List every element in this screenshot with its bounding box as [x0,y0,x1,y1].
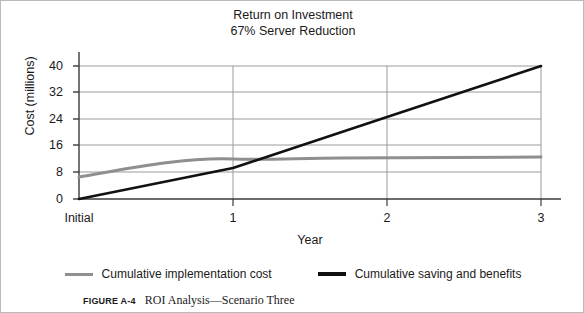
x-tick-label-1: 1 [230,211,237,225]
legend-swatch-icon-implementation-cost [65,273,93,276]
y-axis-label: Cost (millions) [23,26,37,166]
x-tick-label-initial: Initial [64,211,93,225]
figure-container: Return on Investment 67% Server Reductio… [0,0,584,313]
x-tick-marks [233,199,541,206]
y-tick-marks [73,66,79,199]
legend-label-implementation-cost: Cumulative implementation cost [102,267,272,281]
x-axis-label: Year [79,233,541,247]
vertical-gridlines [233,66,541,199]
figure-caption: FIGURE A-4 ROI Analysis—Scenario Three [83,293,294,308]
figure-caption-label: FIGURE A-4 [83,296,136,306]
legend-item-implementation-cost: Cumulative implementation cost [65,267,272,281]
x-tick-label-2: 2 [384,211,391,225]
legend-swatch-icon-saving-benefits [318,272,346,276]
series-line-implementation-cost [79,157,541,177]
y-tick-label-0: 0 [29,192,63,206]
series-line-saving-benefits [79,66,541,199]
chart-legend: Cumulative implementation cost Cumulativ… [1,267,584,281]
legend-label-saving-benefits: Cumulative saving and benefits [355,267,522,281]
y-tick-label-8: 8 [29,165,63,179]
legend-item-saving-benefits: Cumulative saving and benefits [318,267,522,281]
figure-caption-text: ROI Analysis—Scenario Three [145,293,295,307]
x-tick-label-3: 3 [538,211,545,225]
